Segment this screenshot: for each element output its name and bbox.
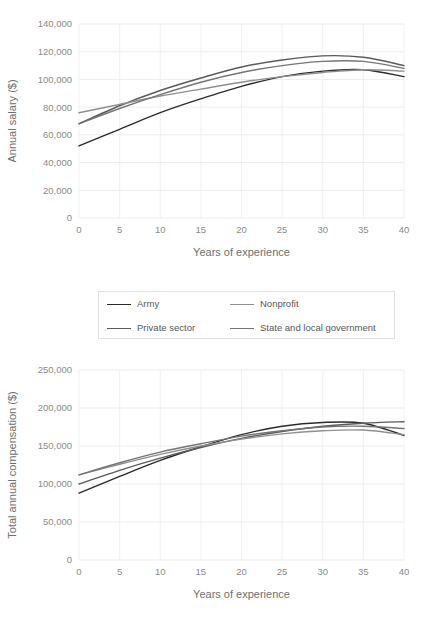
legend-item-nonprofit[interactable]: Nonprofit: [230, 299, 404, 309]
legend-item-private-sector[interactable]: Private sector: [107, 323, 230, 333]
x-tick-label: 5: [117, 566, 122, 577]
x-tick-label: 40: [399, 566, 410, 577]
annual-salary-plot: 020,00040,00060,00080,000100,000120,0001…: [0, 0, 422, 278]
y-tick-label: 100,000: [38, 74, 72, 85]
x-tick-label: 40: [399, 224, 410, 235]
x-tick-label: 0: [76, 224, 81, 235]
y-tick-label: 80,000: [43, 102, 72, 113]
y-axis-title: Annual salary ($): [6, 79, 18, 162]
y-tick-label: 150,000: [38, 440, 72, 451]
x-tick-label: 20: [236, 224, 247, 235]
legend-label-army: Army: [137, 299, 159, 309]
x-tick-label: 25: [277, 566, 288, 577]
total-annual-compensation-plot: 050,000100,000150,000200,000250,00005101…: [0, 350, 422, 618]
x-tick-label: 15: [196, 566, 207, 577]
x-tick-label: 10: [155, 224, 166, 235]
chart-panel-total-annual-compensation: 050,000100,000150,000200,000250,00005101…: [0, 350, 422, 618]
x-tick-label: 30: [317, 566, 328, 577]
legend-swatch-nonprofit: [230, 304, 254, 305]
x-tick-label: 0: [76, 566, 81, 577]
legend-swatch-private-sector: [107, 328, 131, 329]
legend-swatch-army: [107, 304, 131, 305]
y-tick-label: 100,000: [38, 478, 72, 489]
y-tick-label: 250,000: [38, 364, 72, 375]
legend-item-state-and-local-government[interactable]: State and local government: [230, 323, 404, 333]
legend-item-army[interactable]: Army: [107, 299, 230, 309]
y-tick-label: 120,000: [38, 46, 72, 57]
x-axis-title: Years of experience: [193, 588, 290, 600]
x-tick-label: 25: [277, 224, 288, 235]
legend-swatch-state-and-local-government: [230, 328, 254, 329]
y-axis-title: Total annual compensation ($): [6, 391, 18, 538]
y-tick-label: 140,000: [38, 18, 72, 29]
legend-label-state-and-local-government: State and local government: [260, 323, 376, 333]
y-tick-label: 60,000: [43, 129, 72, 140]
x-tick-label: 10: [155, 566, 166, 577]
x-tick-label: 35: [358, 566, 369, 577]
y-tick-label: 0: [67, 212, 72, 223]
x-tick-label: 5: [117, 224, 122, 235]
x-tick-label: 15: [196, 224, 207, 235]
legend-label-private-sector: Private sector: [137, 323, 195, 333]
y-tick-label: 40,000: [43, 157, 72, 168]
x-tick-label: 30: [317, 224, 328, 235]
legend-label-nonprofit: Nonprofit: [260, 299, 299, 309]
y-tick-label: 50,000: [43, 516, 72, 527]
y-tick-label: 20,000: [43, 185, 72, 196]
x-axis-title: Years of experience: [193, 246, 290, 258]
x-tick-label: 35: [358, 224, 369, 235]
y-tick-label: 0: [67, 554, 72, 565]
x-tick-label: 20: [236, 566, 247, 577]
chart-legend: Army Nonprofit Private sector State and …: [98, 291, 395, 339]
y-tick-label: 200,000: [38, 402, 72, 413]
chart-panel-annual-salary: 020,00040,00060,00080,000100,000120,0001…: [0, 0, 422, 278]
chart-page: 020,00040,00060,00080,000100,000120,0001…: [0, 0, 422, 618]
